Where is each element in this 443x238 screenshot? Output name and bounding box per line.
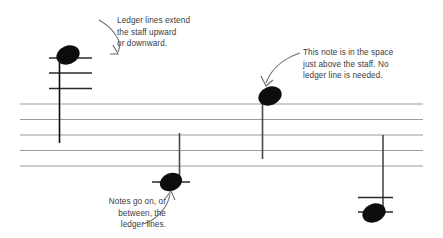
note-on-second-ledger-below — [358, 135, 393, 226]
note-high-above-staff — [49, 42, 92, 143]
note-in-space-callout: This note is in the space just above the… — [303, 47, 425, 82]
note-head — [255, 83, 284, 109]
ledger-lines-figure: Ledger lines extend the staff upward or … — [0, 0, 443, 238]
note-head — [53, 42, 82, 68]
note-space-above-staff — [255, 83, 284, 159]
staff — [20, 104, 423, 166]
notes-on-or-between-callout: Notes go on, or between, the ledger line… — [66, 196, 166, 231]
arrow-shaft — [266, 53, 300, 83]
arrow-to-space-note — [261, 53, 300, 86]
note-head — [359, 200, 388, 226]
note-on-first-ledger-below — [152, 133, 190, 194]
ledger-lines-extend-callout: Ledger lines extend the staff upward or … — [117, 15, 221, 50]
